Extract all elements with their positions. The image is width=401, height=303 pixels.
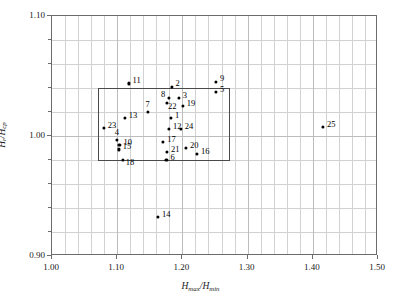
gridline-vertical [365, 16, 366, 254]
data-point-label: 25 [327, 120, 336, 129]
gridline-vertical [235, 16, 236, 254]
y-axis-label-slash: / [0, 136, 7, 139]
data-point-label: 8 [161, 90, 165, 99]
x-axis-label: Hmax/Hmin [0, 281, 401, 292]
x-axis-label-sub-min: min [209, 285, 219, 292]
x-axis-label-numerator: Hmax [181, 281, 199, 291]
y-axis-minor-tick [48, 39, 51, 40]
y-axis-label: Hr/Hcp [0, 122, 7, 148]
data-point-label: 4 [115, 128, 119, 137]
y-axis-label-numerator: Hr [0, 138, 7, 148]
y-axis-label-sub-r: r [0, 138, 7, 141]
gridline-vertical [91, 16, 92, 254]
gridline-horizontal [52, 64, 376, 65]
gridline-vertical [339, 16, 340, 254]
data-point-label: 19 [187, 99, 196, 108]
y-axis-label-denominator: Hcp [0, 122, 7, 135]
x-axis-tick [247, 255, 248, 259]
y-axis-minor-tick [48, 135, 51, 136]
y-axis-tick-label: 0.90 [18, 250, 45, 260]
y-axis-minor-tick [48, 63, 51, 64]
y-axis-minor-tick [48, 15, 51, 16]
data-point-label: 16 [201, 147, 210, 156]
y-axis-minor-tick [48, 159, 51, 160]
data-point-label: 13 [129, 111, 138, 120]
gridline-vertical [78, 16, 79, 254]
data-point-label: 2 [176, 79, 180, 88]
x-axis-label-denominator: Hmin [202, 281, 219, 291]
gridline-vertical [274, 16, 275, 254]
gridline-horizontal [52, 40, 376, 41]
data-point-label: 6 [170, 153, 174, 162]
gridline-vertical [261, 16, 262, 254]
y-axis-label-sub-cp: cp [0, 122, 7, 128]
gridline-horizontal [52, 232, 376, 233]
y-axis-minor-tick [48, 87, 51, 88]
y-axis-minor-tick [48, 111, 51, 112]
data-point-label: 24 [185, 122, 194, 131]
x-axis-tick-label: 1.20 [174, 262, 190, 272]
data-point-label: 15 [123, 142, 132, 151]
scatter-chart-figure: 1129583221971312312242541710152021161861… [0, 0, 401, 303]
data-point-label: 1 [175, 111, 179, 120]
data-point-label: 5 [220, 85, 224, 94]
gridline-horizontal [52, 208, 376, 209]
gridline-vertical [287, 16, 288, 254]
y-axis-minor-tick [48, 183, 51, 184]
data-point-label: 18 [126, 158, 135, 167]
gridline-vertical [326, 16, 327, 254]
data-point-label: 20 [190, 141, 199, 150]
gridline-horizontal [52, 184, 376, 185]
y-axis-tick-label: 1.10 [18, 10, 45, 20]
x-axis-tick-label: 1.30 [239, 262, 255, 272]
x-axis-tick [181, 255, 182, 259]
x-axis-tick-label: 1.40 [304, 262, 320, 272]
x-axis-tick-label: 1.10 [108, 262, 124, 272]
data-point-label: 14 [162, 210, 171, 219]
gridline-vertical-major [248, 16, 249, 254]
data-point-label: 7 [146, 100, 150, 109]
x-axis-tick [116, 255, 117, 259]
gridline-vertical [352, 16, 353, 254]
x-axis-tick-label: 1.50 [369, 262, 385, 272]
data-point-label: 17 [167, 135, 176, 144]
plot-area [51, 15, 377, 255]
gridline-vertical-major [313, 16, 314, 254]
y-axis-minor-tick [48, 207, 51, 208]
x-axis-tick [312, 255, 313, 259]
gridline-vertical [300, 16, 301, 254]
data-point-label: 11 [133, 76, 141, 85]
x-axis-tick-label: 1.00 [43, 262, 59, 272]
data-point-label: 22 [168, 102, 177, 111]
y-axis-minor-tick [48, 255, 51, 256]
x-axis-tick [51, 255, 52, 259]
x-axis-tick [377, 255, 378, 259]
gridline-vertical [65, 16, 66, 254]
data-point-label: 9 [220, 74, 224, 83]
y-axis-minor-tick [48, 231, 51, 232]
y-axis-tick-label: 1.00 [18, 130, 45, 140]
x-axis-label-sub-max: max [188, 285, 199, 292]
